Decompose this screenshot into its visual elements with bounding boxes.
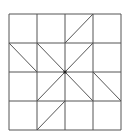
diagonal-line	[9, 43, 37, 72]
diagonal-line	[37, 43, 65, 72]
diagonal-line	[65, 72, 93, 101]
grid-diagram	[0, 0, 130, 133]
diagonal-line	[37, 72, 65, 101]
diagonal-line	[65, 43, 93, 72]
center-point	[63, 70, 66, 73]
diagonal-line	[65, 14, 93, 43]
diagonal-line	[37, 101, 65, 130]
diagonal-line	[93, 72, 121, 101]
